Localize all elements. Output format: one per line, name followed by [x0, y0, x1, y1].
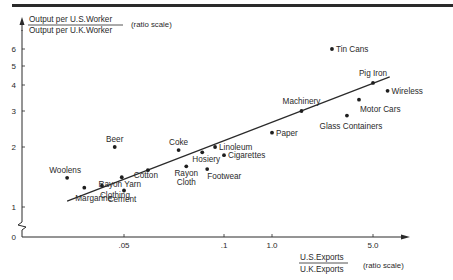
point-label: Tin Cans: [336, 45, 368, 54]
point-hosiery: Hosiery: [192, 150, 221, 164]
point-motor-cars: Motor Cars: [357, 98, 400, 114]
y-ticks: 0123456: [12, 45, 25, 242]
point-marker: [205, 167, 209, 171]
y-tick-label: 6: [12, 45, 17, 54]
y-tick-label: 1: [12, 203, 17, 212]
point-label: Beer: [106, 135, 124, 144]
y-axis-break: [18, 220, 26, 237]
point-marker: [200, 150, 204, 154]
x-axis-arrow-icon: [401, 235, 410, 240]
point-label: Cloth: [177, 178, 197, 187]
point-label: Rayon Yarn: [99, 180, 142, 189]
point-footwear: Footwear: [205, 167, 241, 181]
point-marker: [386, 89, 390, 93]
point-marker: [120, 175, 124, 179]
y-tick-label: 5: [12, 62, 17, 71]
point-marker: [65, 176, 69, 180]
y-tick-label: 3: [12, 107, 17, 116]
point-rayon-cloth: RayonCloth: [174, 164, 198, 187]
data-points: WoolensMargarineClothingBeerRayon YarnCe…: [49, 45, 423, 204]
point-marker: [222, 153, 226, 157]
point-woolens: Woolens: [49, 166, 81, 180]
y-axis-title: Output per U.S.Worker Output per U.K.Wor…: [28, 15, 172, 35]
point-label: Coke: [169, 138, 189, 147]
point-marker: [177, 148, 181, 152]
point-label: Wireless: [392, 87, 423, 96]
y-tick-label: 0: [12, 233, 17, 242]
point-marker: [213, 145, 217, 149]
y-axis-title-denominator: Output per U.K.Worker: [29, 26, 112, 35]
point-marker: [330, 47, 334, 51]
x-tick-label: 1.0: [266, 241, 278, 250]
y-tick-label: 4: [12, 81, 17, 90]
y-axis-title-numerator: Output per U.S.Worker: [29, 15, 112, 24]
scatter-chart: 0123456 .05.11.05.0 Output per U.S.Worke…: [0, 0, 453, 280]
point-label: Glass Containers: [320, 122, 383, 131]
x-axis-title: U.S.Exports U.K.Exports (ratio scale): [299, 253, 404, 274]
point-marker: [371, 81, 375, 85]
point-beer: Beer: [106, 135, 124, 149]
point-wireless: Wireless: [386, 87, 423, 96]
point-cigarettes: Cigarettes: [222, 151, 265, 160]
x-tick-label: 5.0: [367, 241, 379, 250]
point-label: Paper: [276, 129, 298, 138]
point-marker: [345, 114, 349, 118]
point-marker: [184, 164, 188, 168]
point-label: Motor Cars: [360, 105, 401, 114]
point-label: Cigarettes: [228, 151, 265, 160]
y-tick-label: 2: [12, 143, 17, 152]
point-label: Cotton: [134, 171, 159, 180]
point-label: Hosiery: [192, 155, 221, 164]
point-coke: Coke: [169, 138, 189, 152]
point-label: Cement: [108, 195, 137, 204]
point-pig-iron: Pig Iron: [359, 69, 388, 85]
x-axis-scale-note: (ratio scale): [363, 261, 404, 270]
x-tick-label: .1: [221, 241, 228, 250]
point-marker: [300, 109, 304, 113]
point-glass-containers: Glass Containers: [320, 114, 383, 131]
y-axis-scale-note: (ratio scale): [131, 20, 172, 29]
x-tick-label: .05: [118, 241, 130, 250]
y-axis-arrow-icon: [20, 17, 25, 25]
point-marker: [357, 98, 361, 102]
point-tin-cans: Tin Cans: [330, 45, 368, 54]
point-marker: [270, 131, 274, 135]
x-axis-title-numerator: U.S.Exports: [300, 253, 344, 262]
x-ticks: .05.11.05.0: [118, 234, 379, 250]
point-paper: Paper: [270, 129, 298, 138]
point-label: Rayon: [174, 169, 198, 178]
x-axis-title-denominator: U.K.Exports: [300, 265, 344, 274]
point-marker: [122, 189, 126, 193]
point-cotton: Cotton: [134, 168, 159, 180]
point-label: Woolens: [49, 166, 81, 175]
point-marker: [82, 186, 86, 190]
point-machinery: Machinery: [283, 97, 322, 113]
point-label: Machinery: [283, 97, 322, 106]
point-label: Footwear: [207, 172, 241, 181]
point-label: Pig Iron: [359, 69, 388, 78]
point-marker: [113, 145, 117, 149]
